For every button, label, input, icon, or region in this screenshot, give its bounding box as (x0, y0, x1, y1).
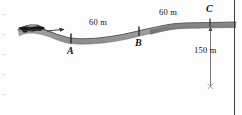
point-label-c: C (206, 4, 213, 14)
motion-direction-arrow (47, 29, 64, 31)
margin-artifact (2, 54, 5, 55)
margin-artifact (2, 74, 5, 75)
road-profile-svg (0, 0, 242, 115)
distance-label-ab: 60 m (89, 18, 107, 27)
margin-artifact (2, 94, 5, 95)
point-label-b: B (135, 38, 142, 48)
drop-dimension-arrow (208, 27, 213, 90)
distance-label-drop: 150 m (194, 46, 217, 55)
road-surface (18, 22, 236, 44)
margin-artifact (2, 34, 5, 35)
physics-diagram-figure: 60 m 60 m 150 m A B C (0, 0, 242, 115)
margin-artifact (2, 14, 5, 15)
distance-label-bc: 60 m (159, 8, 177, 17)
page-gutter-rule (234, 0, 235, 115)
point-label-a: A (67, 46, 74, 56)
